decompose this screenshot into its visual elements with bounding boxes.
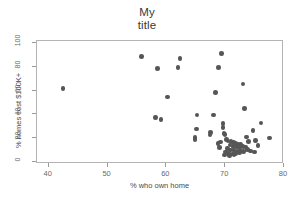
data-point xyxy=(219,51,224,56)
data-point xyxy=(223,132,228,137)
plot-frame xyxy=(36,40,283,163)
y-axis-tick xyxy=(32,137,36,138)
scatter-plot-area xyxy=(37,41,282,162)
data-point xyxy=(211,113,216,118)
data-point xyxy=(195,113,200,118)
data-point xyxy=(194,127,199,132)
x-axis-tick xyxy=(48,163,49,167)
data-point xyxy=(256,143,261,148)
data-point xyxy=(252,150,257,155)
y-axis-title: % homes cost $100K+ xyxy=(14,73,23,148)
data-point xyxy=(251,128,256,133)
data-point xyxy=(61,86,66,91)
y-axis-tick xyxy=(32,42,36,43)
y-axis-tick xyxy=(32,90,36,91)
x-axis-tick-label: 50 xyxy=(97,169,117,178)
data-point xyxy=(178,56,183,61)
x-axis-tick xyxy=(224,163,225,167)
x-axis-tick-label: 70 xyxy=(214,169,234,178)
data-point xyxy=(241,82,246,87)
data-point xyxy=(217,145,222,150)
y-axis-tick-label: 0 xyxy=(14,148,21,170)
data-point xyxy=(153,115,158,120)
x-axis-tick-label: 60 xyxy=(155,169,175,178)
data-point xyxy=(218,140,223,145)
y-axis-tick xyxy=(32,66,36,67)
data-point xyxy=(242,106,247,111)
data-point xyxy=(176,65,181,70)
data-point xyxy=(227,153,232,158)
y-axis-tick xyxy=(32,161,36,162)
data-point xyxy=(246,139,251,144)
data-point xyxy=(165,95,170,100)
data-point xyxy=(259,121,264,126)
chart-title: My title xyxy=(0,6,294,32)
data-point xyxy=(253,138,258,143)
x-axis-tick xyxy=(283,163,284,167)
data-point xyxy=(244,135,249,140)
x-axis-tick xyxy=(107,163,108,167)
data-point xyxy=(213,90,218,95)
chart-root: My title 020406080100 4050607080 % homes… xyxy=(0,0,294,201)
data-point xyxy=(267,136,272,141)
data-point xyxy=(237,150,242,155)
x-axis-title: % who own home xyxy=(36,181,283,190)
x-axis-tick-label: 80 xyxy=(273,169,293,178)
data-point xyxy=(208,133,213,138)
data-point xyxy=(155,66,160,71)
data-point xyxy=(232,153,237,158)
data-point xyxy=(139,54,144,59)
x-axis-tick-label: 40 xyxy=(38,169,58,178)
data-point xyxy=(221,125,226,130)
data-point xyxy=(193,137,198,142)
x-axis-tick xyxy=(165,163,166,167)
y-axis-tick-label: 100 xyxy=(14,30,21,52)
data-point xyxy=(216,65,221,70)
y-axis-tick xyxy=(32,113,36,114)
data-point xyxy=(159,117,164,122)
